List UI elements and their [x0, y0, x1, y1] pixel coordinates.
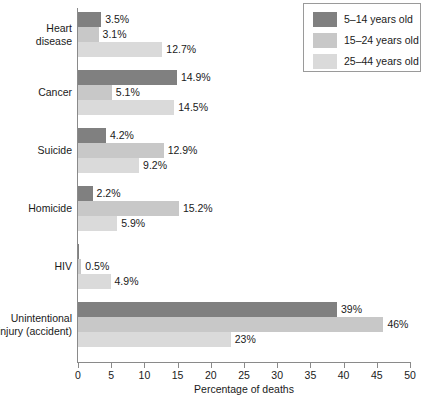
bar[interactable]	[78, 12, 101, 27]
bar-row: 23%	[78, 332, 424, 347]
x-axis-tick-label: 50	[397, 369, 423, 381]
category-label-line: disease	[0, 35, 72, 48]
legend-swatch	[313, 33, 337, 48]
bar-row: 4.2%	[78, 128, 424, 143]
x-axis-tick	[377, 363, 378, 368]
bar-value-label: 14.5%	[174, 100, 208, 115]
x-axis-tick-label: 25	[231, 369, 257, 381]
bar-value-label: 0.5%	[81, 259, 109, 274]
category-label-line: HIV	[0, 260, 72, 273]
bar-row: 15.2%	[78, 201, 424, 216]
bar[interactable]	[78, 302, 337, 317]
bar[interactable]	[78, 27, 99, 42]
x-axis-tick	[178, 363, 179, 368]
bar-row: 2.2%	[78, 186, 424, 201]
category-label: Homicide	[0, 202, 72, 215]
category-label-line: Heart	[0, 22, 72, 35]
bar[interactable]	[78, 332, 231, 347]
bar[interactable]	[78, 317, 383, 332]
bar-row: 46%	[78, 317, 424, 332]
bar[interactable]	[78, 128, 106, 143]
bar-group: 2.2%15.2%5.9%	[78, 186, 424, 231]
bar-value-label: 23%	[231, 332, 256, 347]
bar-value-label: 4.2%	[106, 128, 134, 143]
x-axis-tick-label: 40	[331, 369, 357, 381]
x-axis-tick-label: 20	[198, 369, 224, 381]
x-axis-tick	[111, 363, 112, 368]
category-label: Heartdisease	[0, 22, 72, 47]
x-axis-tick-label: 10	[131, 369, 157, 381]
bar[interactable]	[78, 42, 162, 57]
category-label: Suicide	[0, 144, 72, 157]
bar-row: 4.9%	[78, 274, 424, 289]
bar[interactable]	[78, 216, 117, 231]
bar-row: 14.9%	[78, 70, 424, 85]
category-label: Cancer	[0, 86, 72, 99]
bar-row: 5.9%	[78, 216, 424, 231]
legend-label: 5–14 years old	[344, 12, 413, 27]
x-axis-tick-label: 30	[264, 369, 290, 381]
bar[interactable]	[78, 186, 93, 201]
bar[interactable]	[78, 100, 174, 115]
bar-value-label: 4.9%	[111, 274, 139, 289]
x-axis-tick	[277, 363, 278, 368]
legend: 5–14 years old15–24 years old25–44 years…	[303, 3, 421, 72]
legend-label: 25–44 years old	[344, 54, 419, 69]
x-axis-tick	[211, 363, 212, 368]
bar[interactable]	[78, 274, 111, 289]
bar-row: 39%	[78, 302, 424, 317]
x-axis-tick	[410, 363, 411, 368]
x-axis-tick-label: 0	[65, 369, 91, 381]
bar-value-label: 15.2%	[179, 201, 213, 216]
bar-group: 0.5%4.9%	[78, 244, 424, 289]
bar-group: 39%46%23%	[78, 302, 424, 347]
category-label-line: injury (accident)	[0, 325, 72, 338]
bar-group: 4.2%12.9%9.2%	[78, 128, 424, 173]
bar-row: 12.9%	[78, 143, 424, 158]
bar[interactable]	[78, 70, 177, 85]
bar-row	[78, 244, 424, 259]
bar-value-label: 3.1%	[99, 27, 127, 42]
x-axis-title: Percentage of deaths	[77, 383, 411, 395]
bar-value-label: 14.9%	[177, 70, 211, 85]
bar[interactable]	[78, 244, 79, 259]
bar-value-label: 46%	[383, 317, 408, 332]
legend-swatch	[313, 12, 337, 27]
bar-value-label: 2.2%	[93, 186, 121, 201]
x-axis-tick	[78, 363, 79, 368]
bar[interactable]	[78, 201, 179, 216]
bar-value-label: 12.7%	[162, 42, 196, 57]
x-axis-tick-label: 15	[165, 369, 191, 381]
category-label-line: Cancer	[0, 86, 72, 99]
category-label: Unintentionalinjury (accident)	[0, 312, 72, 337]
bar-row: 9.2%	[78, 158, 424, 173]
category-label-line: Unintentional	[0, 312, 72, 325]
bar[interactable]	[78, 85, 112, 100]
x-axis-tick	[344, 363, 345, 368]
legend-label: 15–24 years old	[344, 33, 419, 48]
bar-group: 14.9%5.1%14.5%	[78, 70, 424, 115]
legend-swatch	[313, 54, 337, 69]
bar-chart: 05101520253035404550 Percentage of death…	[0, 0, 424, 399]
category-label-line: Suicide	[0, 144, 72, 157]
bar[interactable]	[78, 158, 139, 173]
bar-value-label: 5.1%	[112, 85, 140, 100]
x-axis-tick-label: 45	[364, 369, 390, 381]
bar-value-label: 5.9%	[117, 216, 145, 231]
x-axis-tick	[244, 363, 245, 368]
x-axis-tick	[144, 363, 145, 368]
x-axis-tick-label: 35	[297, 369, 323, 381]
bar-value-label: 9.2%	[139, 158, 167, 173]
category-label: HIV	[0, 260, 72, 273]
x-axis-tick-label: 5	[98, 369, 124, 381]
bar-row: 0.5%	[78, 259, 424, 274]
bar[interactable]	[78, 143, 164, 158]
bar-value-label: 39%	[337, 302, 362, 317]
category-label-line: Homicide	[0, 202, 72, 215]
bar-row: 5.1%	[78, 85, 424, 100]
bar-value-label: 3.5%	[101, 12, 129, 27]
x-axis-tick	[310, 363, 311, 368]
bar-value-label: 12.9%	[164, 143, 198, 158]
bar-row: 14.5%	[78, 100, 424, 115]
